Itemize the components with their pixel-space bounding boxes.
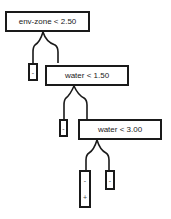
leaf-symbol: - bbox=[32, 69, 34, 76]
tree-leaf-3: - + bbox=[79, 170, 91, 208]
tree-leaf-2: - bbox=[59, 119, 68, 137]
node-label: water < 1.50 bbox=[65, 71, 109, 80]
leaf-symbol: - bbox=[84, 177, 86, 184]
tree-leaf-4: - bbox=[105, 170, 115, 190]
tree-leaf-1: - bbox=[28, 63, 38, 81]
node-label: water < 3.00 bbox=[98, 125, 142, 134]
leaf-symbol: - bbox=[62, 125, 64, 132]
tree-node-water-1: water < 1.50 bbox=[45, 65, 129, 86]
leaf-symbol: - bbox=[109, 177, 111, 184]
leaf-symbol: + bbox=[83, 194, 87, 201]
node-label: env-zone < 2.50 bbox=[19, 17, 77, 26]
tree-node-water-2: water < 3.00 bbox=[78, 119, 162, 140]
tree-node-root: env-zone < 2.50 bbox=[5, 11, 90, 32]
